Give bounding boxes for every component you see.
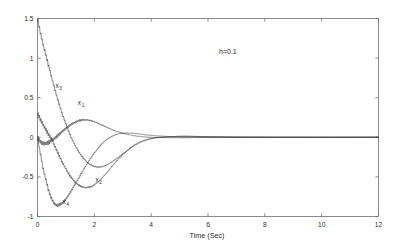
curve-label-subscript-2: 2 (99, 180, 102, 185)
chart-annotations: h=0.1 (219, 48, 237, 55)
x-tick-label: 6 (206, 221, 210, 228)
y-tick-label: 1.5 (24, 15, 33, 22)
x-tick-label: 12 (375, 221, 383, 228)
y-tick-label: 0.5 (24, 94, 33, 101)
x-tick-label: 10 (318, 221, 326, 228)
curve-label-subscript-1: 1 (82, 103, 85, 108)
y-tick-label: -1 (28, 213, 34, 220)
x-tick-label: 8 (263, 221, 267, 228)
curve-label-subscript-4: 4 (66, 202, 69, 207)
y-tick-label: 0 (30, 134, 34, 141)
x-tick-label: 2 (92, 221, 96, 228)
curve-label-subscript-3: 3 (59, 86, 62, 91)
x-tick-label: 0 (36, 221, 40, 228)
x-tick-label: 4 (149, 221, 153, 228)
y-tick-label: -0.5 (22, 173, 34, 180)
chart-background (0, 0, 399, 249)
x-axis-title: Time (Sec) (190, 231, 225, 240)
chart-figure: 024681012 -1-0.500.511.5 x3x1x2x4 h=0.1 … (0, 0, 399, 249)
step-size-annotation: h=0.1 (219, 48, 237, 55)
y-tick-label: 1 (30, 55, 34, 62)
line-chart: 024681012 -1-0.500.511.5 x3x1x2x4 h=0.1 … (0, 0, 399, 249)
